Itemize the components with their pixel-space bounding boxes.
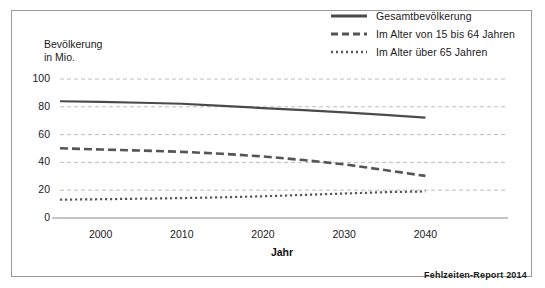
x-tick-label-2040: 2040 (405, 228, 445, 240)
x-tick-label-2020: 2020 (243, 228, 283, 240)
series-line-2 (60, 191, 425, 199)
y-tick-label-20: 20 (22, 183, 50, 195)
y-tick-label-100: 100 (22, 72, 50, 84)
figure-credit: Fehlzeiten-Report 2014 (424, 270, 527, 280)
chart-plot-area (0, 0, 545, 288)
x-tick-label-2030: 2030 (324, 228, 364, 240)
x-tick-label-2000: 2000 (81, 228, 121, 240)
y-tick-label-0: 0 (22, 211, 50, 223)
y-tick-label-80: 80 (22, 100, 50, 112)
y-tick-label-60: 60 (22, 128, 50, 140)
y-tick-label-40: 40 (22, 155, 50, 167)
series-line-0 (60, 101, 425, 117)
x-axis-title: Jahr (252, 246, 312, 258)
x-tick-label-2010: 2010 (162, 228, 202, 240)
